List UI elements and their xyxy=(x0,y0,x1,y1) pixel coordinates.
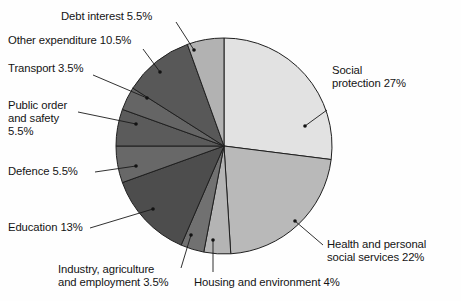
anchor-dot-social-protection xyxy=(303,124,307,128)
label-social-line1: Social xyxy=(332,64,362,77)
label-defence: Defence 5.5% xyxy=(8,165,78,178)
label-public-order-line2: and safety xyxy=(8,112,59,125)
pie-slice-social-protection[interactable] xyxy=(224,38,332,160)
label-other-expenditure: Other expenditure 10.5% xyxy=(8,34,131,47)
label-health-line1: Health and personal xyxy=(327,238,426,251)
anchor-dot-transport xyxy=(145,96,149,100)
label-industry-line1: Industry, agriculture xyxy=(58,263,154,276)
anchor-dot-health xyxy=(293,219,297,223)
anchor-dot-other-expenditure xyxy=(158,70,162,74)
pie-chart-figure: Debt interest 5.5% Other expenditure 10.… xyxy=(0,0,461,301)
pie-slices xyxy=(116,38,332,254)
label-health-line2: social services 22% xyxy=(327,251,424,264)
anchor-dot-debt-interest xyxy=(192,48,196,52)
label-housing-environment: Housing and environment 4% xyxy=(194,276,340,289)
label-public-order-line3: 5.5% xyxy=(8,125,33,138)
leader-line-health xyxy=(295,221,323,245)
anchor-dot-industry xyxy=(189,233,193,237)
anchor-dot-education xyxy=(151,207,155,211)
label-public-order-line1: Public order xyxy=(8,99,67,112)
anchor-dot-housing xyxy=(211,238,215,242)
label-transport: Transport 3.5% xyxy=(8,62,83,75)
label-industry-line2: and employment 3.5% xyxy=(58,276,169,289)
label-education: Education 13% xyxy=(8,221,83,234)
label-debt-interest: Debt interest 5.5% xyxy=(61,10,152,23)
anchor-dot-defence xyxy=(134,164,138,168)
label-social-line2: protection 27% xyxy=(332,77,406,90)
anchor-dot-public-order xyxy=(134,122,138,126)
